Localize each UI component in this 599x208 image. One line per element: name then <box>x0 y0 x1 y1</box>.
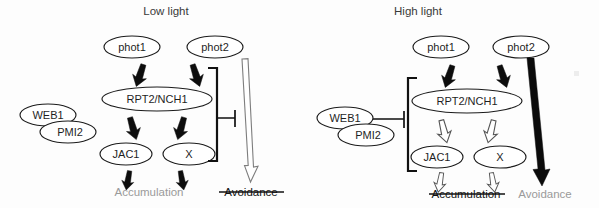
node-x-high: X <box>474 146 526 168</box>
node-phot2-low: phot2 <box>187 36 243 58</box>
node-rpt2-nch1-low: RPT2/NCH1 <box>102 87 212 111</box>
node-jac1-low: JAC1 <box>100 143 152 165</box>
node-label-pmi2: PMI2 <box>355 129 381 141</box>
node-label-phot2: phot2 <box>507 41 535 53</box>
node-jac1-high: JAC1 <box>411 146 463 168</box>
edge-phot1-to-hub-low <box>129 62 150 88</box>
node-label-web1: WEB1 <box>329 112 360 124</box>
edge-hub-to-jac1-high <box>435 119 454 145</box>
outcome-avoidance-high: Avoidance <box>518 188 572 200</box>
edge-phot2-to-avoidance-low <box>242 59 258 182</box>
panel-high-light: High light phot1 phot2 RPT2/N <box>317 5 572 200</box>
edge-phot1-to-hub-high <box>438 63 459 89</box>
panel-title-high-light: High light <box>394 5 443 17</box>
outcome-label: Accumulation <box>114 186 183 198</box>
node-label-hub: RPT2/NCH1 <box>126 93 187 105</box>
figure-canvas: Low light phot1 phot2 RPT2/NC <box>0 0 599 208</box>
outcome-label: Avoidance <box>518 188 572 200</box>
panel-low-light: Low light phot1 phot2 RPT2/NC <box>20 5 284 198</box>
node-label-web1: WEB1 <box>32 109 63 121</box>
node-label-phot1: phot1 <box>118 41 146 53</box>
node-phot2-high: phot2 <box>493 36 549 58</box>
outcome-accumulation-high: Accumulation <box>429 188 505 200</box>
node-x-low: X <box>163 143 215 165</box>
edge-phot2-to-hub-high <box>493 63 514 89</box>
node-label-jac1: JAC1 <box>424 151 451 163</box>
outcome-accumulation-low: Accumulation <box>114 186 183 198</box>
node-label-phot1: phot1 <box>427 41 455 53</box>
node-label-jac1: JAC1 <box>113 148 140 160</box>
edge-phot2-to-hub-low <box>186 62 207 88</box>
edge-hub-to-x-low <box>171 115 191 141</box>
outcome-avoidance-low: Avoidance <box>219 186 284 198</box>
node-label-phot2: phot2 <box>201 41 229 53</box>
edge-phot2-to-avoidance-high <box>527 58 550 186</box>
inhibition-tbar-low <box>217 110 235 127</box>
edge-hub-to-x-high <box>481 119 500 145</box>
node-label-pmi2: PMI2 <box>57 126 83 138</box>
node-phot1-low: phot1 <box>104 36 160 58</box>
node-pmi2-low: PMI2 <box>40 121 96 143</box>
node-label-hub: RPT2/NCH1 <box>436 95 497 107</box>
scan-artifact <box>574 71 579 76</box>
node-label-x: X <box>496 151 504 163</box>
node-rpt2-nch1-high: RPT2/NCH1 <box>412 89 522 113</box>
node-phot1-high: phot1 <box>413 36 469 58</box>
node-label-x: X <box>185 148 193 160</box>
node-pmi2-high: PMI2 <box>338 124 394 146</box>
panel-title-low-light: Low light <box>143 5 189 17</box>
edge-hub-to-jac1-low <box>123 115 143 141</box>
